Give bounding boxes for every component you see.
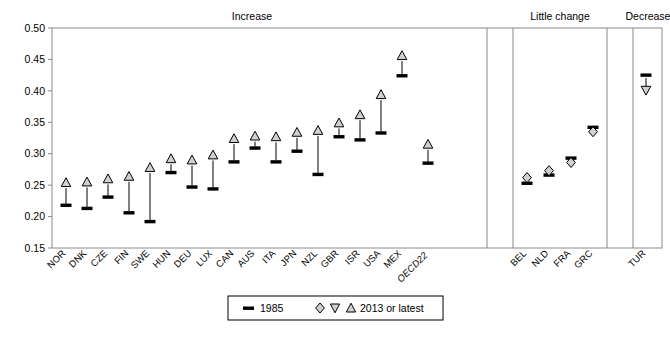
y-tick-label-0.30: 0.30 — [25, 147, 46, 159]
y-tick-label-0.15: 0.15 — [25, 242, 46, 254]
marker-1985-JPN — [292, 150, 303, 153]
group-header-decrease: Decrease — [626, 10, 670, 22]
legend-label-2013: 2013 or latest — [360, 302, 424, 314]
marker-1985-SWE — [145, 220, 156, 223]
group-header-increase: Increase — [232, 10, 272, 22]
marker-1985-DNK — [82, 207, 93, 210]
legend-label-1985: 1985 — [260, 302, 284, 314]
y-tick-label-0.40: 0.40 — [25, 85, 46, 97]
chart-background — [0, 0, 670, 338]
group-header-littlechange: Little change — [530, 10, 590, 22]
y-tick-label-0.45: 0.45 — [25, 53, 46, 65]
marker-1985-MEX — [397, 74, 408, 77]
range-plot-chart: IncreaseLittle changeDecrease 0.150.200.… — [0, 0, 670, 338]
chart-legend: 19852013 or latest — [228, 296, 443, 320]
marker-1985-ITA — [271, 160, 282, 163]
marker-1985-DEU — [187, 185, 198, 188]
marker-1985-CZE — [103, 195, 114, 198]
marker-1985-LUX — [208, 187, 219, 190]
marker-1985-OECD22 — [423, 161, 434, 164]
marker-1985-AUS — [250, 146, 261, 149]
marker-1985-NZL — [313, 173, 324, 176]
marker-1985-HUN — [166, 171, 177, 174]
marker-1985-USA — [376, 131, 387, 134]
y-tick-label-0.35: 0.35 — [25, 116, 46, 128]
marker-1985-FIN — [124, 211, 135, 214]
y-tick-label-0.20: 0.20 — [25, 210, 46, 222]
marker-1985-TUR — [641, 73, 652, 76]
marker-1985-GBR — [334, 135, 345, 138]
marker-1985-ISR — [355, 138, 366, 141]
y-tick-label-0.50: 0.50 — [25, 22, 46, 34]
chart-container: IncreaseLittle changeDecrease 0.150.200.… — [0, 0, 670, 338]
marker-1985-NOR — [61, 204, 72, 207]
y-tick-label-0.25: 0.25 — [25, 179, 46, 191]
marker-1985-CAN — [229, 160, 240, 163]
legend-dash-marker — [243, 307, 254, 310]
